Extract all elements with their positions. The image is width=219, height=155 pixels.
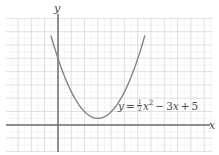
graph-figure: y x y=12x2−3x+5 bbox=[0, 0, 219, 155]
x-axis-label: x bbox=[209, 120, 215, 131]
equation-constant: 5 bbox=[192, 100, 199, 112]
equation-linear-coefficient: 3 bbox=[166, 100, 173, 112]
equation-equals: = bbox=[126, 100, 135, 112]
coordinate-plane bbox=[0, 0, 219, 155]
equation-fraction-one-half: 12 bbox=[137, 99, 142, 113]
equation-plus: + bbox=[181, 100, 190, 112]
equation-annotation: y=12x2−3x+5 bbox=[118, 99, 198, 113]
fraction-denominator: 2 bbox=[137, 106, 142, 112]
equation-lhs: y bbox=[118, 100, 124, 112]
equation-exponent: 2 bbox=[149, 98, 154, 107]
equation-linear-var: x bbox=[173, 100, 179, 112]
y-axis-label: y bbox=[54, 3, 60, 14]
equation-minus: − bbox=[155, 100, 164, 112]
